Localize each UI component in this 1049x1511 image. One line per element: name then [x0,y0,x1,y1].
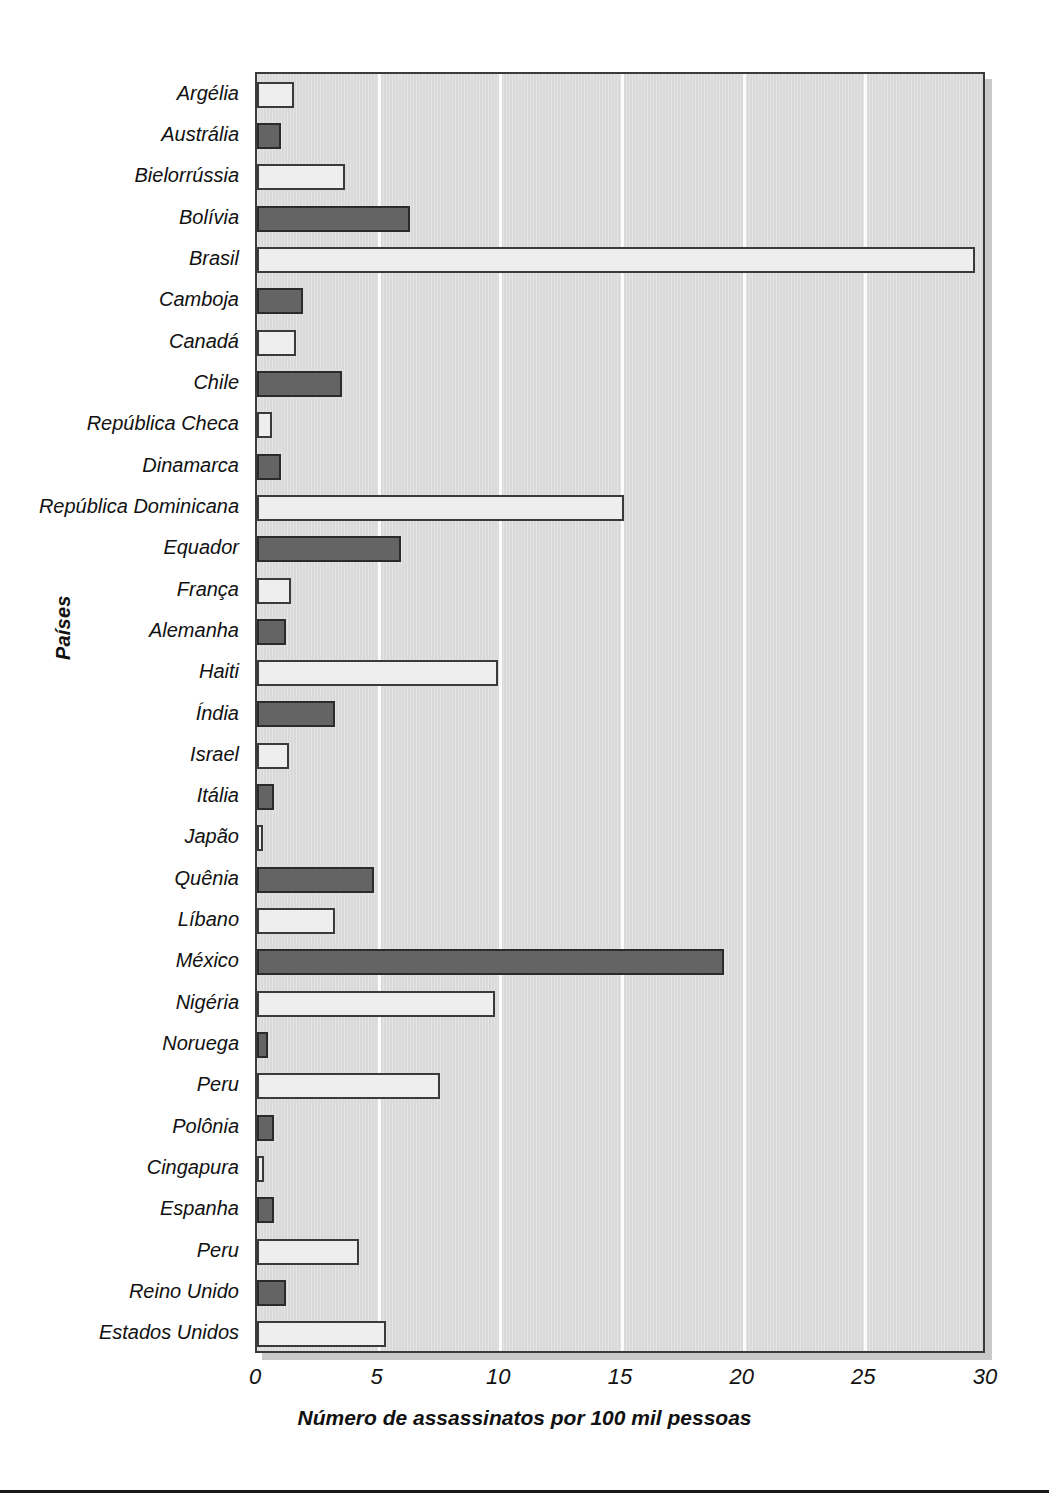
x-tick-label: 15 [608,1364,632,1390]
bar-row [257,1024,983,1065]
x-tick-label: 20 [729,1364,753,1390]
category-label: República Checa [87,412,239,435]
category-label: México [176,949,239,972]
category-label: França [177,577,239,600]
category-label: Peru [197,1073,239,1096]
bar [257,908,335,934]
bar [257,123,281,149]
bar [257,1321,386,1347]
bar-row [257,1272,983,1313]
category-label: Canadá [169,329,239,352]
bar-row [257,1066,983,1107]
bar-row [257,694,983,735]
category-label: Brasil [189,246,239,269]
bar [257,1280,286,1306]
category-label: Bielorrússia [135,164,239,187]
bar-row [257,157,983,198]
plot-area [255,72,985,1353]
bar-row [257,74,983,115]
category-label: Peru [197,1238,239,1261]
bar [257,1073,440,1099]
category-label: Reino Unido [129,1280,239,1303]
category-label: Dinamarca [142,453,239,476]
page-bottom-rule [0,1490,1049,1493]
bar-row [257,776,983,817]
bar [257,288,303,314]
bar [257,1156,264,1182]
bar-row [257,446,983,487]
category-label: Alemanha [149,618,239,641]
bar [257,206,410,232]
x-axis-ticks: 051015202530 [255,1364,985,1398]
bar [257,1115,274,1141]
bar-row [257,818,983,859]
x-tick-label: 0 [249,1364,261,1390]
bar-row [257,363,983,404]
bar [257,578,291,604]
bar [257,454,281,480]
bar-row [257,322,983,363]
bar [257,991,495,1017]
category-label: Chile [193,370,239,393]
category-label: Haiti [199,660,239,683]
bar-row [257,735,983,776]
bar-row [257,653,983,694]
category-label: Cingapura [147,1156,239,1179]
category-label: Índia [196,701,239,724]
bar [257,949,724,975]
bar-row [257,1107,983,1148]
category-label: Nigéria [176,990,239,1013]
category-axis-labels: ArgéliaAustráliaBielorrússiaBolíviaBrasi… [0,72,247,1353]
category-label: Espanha [160,1197,239,1220]
category-label: Noruega [162,1032,239,1055]
bar [257,495,624,521]
category-label: Quênia [175,866,240,889]
bar [257,1197,274,1223]
category-label: Bolívia [179,205,239,228]
bar [257,1032,268,1058]
bar-row [257,529,983,570]
bar-row [257,239,983,280]
bar-row [257,942,983,983]
category-label: Itália [197,784,239,807]
bar-row [257,900,983,941]
category-label: Líbano [178,908,239,931]
x-tick-label: 10 [486,1364,510,1390]
x-tick-label: 5 [371,1364,383,1390]
bar-row [257,198,983,239]
bar-row [257,570,983,611]
category-label: Equador [163,536,239,559]
bar [257,371,342,397]
bar-row [257,859,983,900]
category-label: Estados Unidos [99,1321,239,1344]
bar [257,743,289,769]
bar-row [257,983,983,1024]
category-label: República Dominicana [39,494,239,517]
bar [257,619,286,645]
bar-row [257,1190,983,1231]
bar [257,1239,359,1265]
bar-row [257,487,983,528]
category-label: Argélia [177,81,239,104]
bar [257,701,335,727]
x-axis-label: Número de assassinatos por 100 mil pesso… [0,1406,1049,1430]
bar [257,825,263,851]
bar-row [257,1148,983,1189]
bar [257,247,975,273]
category-label: Polônia [172,1114,239,1137]
bar-series [257,74,983,1351]
bar [257,536,401,562]
category-label: Israel [190,742,239,765]
bar [257,330,296,356]
bar-row [257,405,983,446]
bar-row [257,1231,983,1272]
bar [257,164,345,190]
bar [257,660,498,686]
chart-page: Países ArgéliaAustráliaBielorrússiaBolív… [0,0,1049,1511]
category-label: Camboja [159,288,239,311]
category-label: Austrália [161,122,239,145]
bar [257,784,274,810]
bar-chart-figure: Países ArgéliaAustráliaBielorrússiaBolív… [0,0,1049,1480]
bar [257,82,294,108]
bar [257,412,272,438]
